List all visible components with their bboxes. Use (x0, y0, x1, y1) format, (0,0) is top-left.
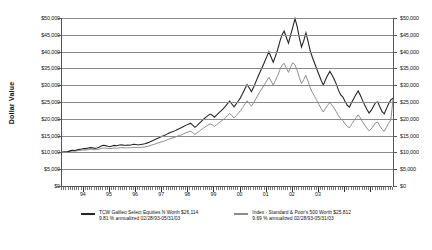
y-tick-mark (393, 169, 397, 170)
x-tick-mark (233, 187, 234, 190)
x-tick-mark (283, 187, 284, 190)
x-tick-mark (264, 187, 265, 190)
x-tick-mark (242, 187, 243, 190)
y-tick-mark (58, 68, 62, 69)
x-tick-mark (351, 187, 352, 190)
x-tick-mark (105, 187, 106, 190)
x-tick-label: 00 (237, 191, 243, 197)
x-tick-mark (61, 187, 62, 190)
x-tick-mark (133, 187, 134, 190)
x-tick-mark (385, 187, 386, 190)
x-tick-mark (211, 187, 212, 190)
x-tick-mark (155, 187, 156, 190)
x-tick-mark (81, 187, 82, 190)
x-tick-mark (89, 187, 90, 190)
x-tick-mark (209, 187, 210, 190)
x-tick-mark (255, 187, 256, 190)
x-tick-mark (144, 187, 145, 190)
y-tick-label-right: $35,000 (400, 65, 419, 71)
x-tick-mark (129, 187, 130, 190)
x-tick-mark (253, 187, 254, 190)
y-tick-label-right: $40,000 (400, 49, 419, 55)
x-tick-mark (381, 187, 382, 190)
x-tick-mark (111, 187, 112, 190)
x-tick-mark (279, 187, 280, 190)
x-tick-mark (268, 187, 269, 190)
x-tick-label: 02 (289, 191, 295, 197)
legend-label-fund: TCW Galileo Select Equities N Worth $26,… (99, 210, 198, 222)
y-tick-label-right: $0 (400, 183, 406, 189)
x-tick-mark (324, 187, 325, 190)
x-tick-mark (94, 187, 95, 190)
legend-swatch-index (234, 213, 248, 215)
x-tick-mark (296, 187, 297, 190)
gridline (62, 35, 393, 36)
x-tick-mark (78, 187, 79, 190)
x-tick-mark (220, 187, 221, 190)
x-tick-mark (331, 187, 332, 190)
x-tick-mark (203, 187, 204, 190)
x-tick-mark (294, 187, 295, 190)
x-tick-mark (87, 187, 88, 190)
x-tick-mark (139, 187, 140, 190)
x-tick-mark (118, 187, 119, 190)
y-axis-title: Dollar Value (8, 82, 15, 124)
y-tick-mark (393, 35, 397, 36)
x-tick-mark (338, 187, 339, 190)
x-tick-mark (366, 187, 367, 190)
x-tick-mark (74, 187, 75, 190)
x-tick-mark (309, 187, 310, 190)
legend-swatch-fund (81, 213, 95, 215)
x-tick-mark (301, 187, 302, 190)
y-tick-mark (393, 52, 397, 53)
x-tick-mark (150, 187, 151, 190)
x-tick-mark (372, 187, 373, 190)
x-tick-mark (222, 187, 223, 190)
x-tick-mark (375, 187, 376, 190)
legend-label-index: Index - Standard & Poor's 500 Worth $25,… (252, 210, 351, 222)
x-tick-mark (362, 187, 363, 190)
y-tick-mark (58, 52, 62, 53)
x-tick-mark (91, 187, 92, 190)
y-tick-label-right: $5,000 (400, 166, 416, 172)
x-tick-mark (72, 187, 73, 190)
x-tick-mark (257, 187, 258, 190)
gridline (62, 85, 393, 86)
x-tick-mark (259, 187, 260, 190)
series-line-index (62, 63, 393, 153)
x-tick-mark (229, 187, 230, 190)
x-tick-mark (76, 187, 77, 190)
x-tick-mark (357, 187, 358, 190)
x-tick-mark (277, 187, 278, 190)
x-tick-mark (355, 187, 356, 190)
x-tick-mark (307, 187, 308, 190)
x-tick-mark (364, 187, 365, 190)
x-tick-mark (122, 187, 123, 190)
x-tick-mark (152, 187, 153, 190)
x-tick-label: 99 (211, 191, 217, 197)
plot-area (61, 18, 394, 186)
x-tick-mark (70, 187, 71, 190)
y-tick-mark (58, 136, 62, 137)
x-tick-mark (368, 187, 369, 190)
x-tick-mark (183, 187, 184, 190)
y-tick-mark (393, 136, 397, 137)
x-tick-mark (166, 187, 167, 190)
x-tick-mark (298, 187, 299, 190)
x-tick-mark (340, 187, 341, 190)
x-tick-mark (392, 187, 393, 190)
x-tick-mark (126, 187, 127, 190)
x-tick-mark (181, 187, 182, 190)
x-tick-mark (261, 187, 262, 190)
x-tick-mark (346, 187, 347, 190)
x-tick-label: 94 (80, 191, 86, 197)
x-tick-mark (246, 187, 247, 190)
x-tick-mark (207, 187, 208, 190)
x-tick-mark (216, 187, 217, 190)
x-tick-mark (65, 187, 66, 190)
x-tick-mark (270, 187, 271, 190)
y-tick-mark (393, 152, 397, 153)
y-tick-mark (58, 85, 62, 86)
y-tick-mark (393, 119, 397, 120)
x-tick-mark (174, 187, 175, 190)
